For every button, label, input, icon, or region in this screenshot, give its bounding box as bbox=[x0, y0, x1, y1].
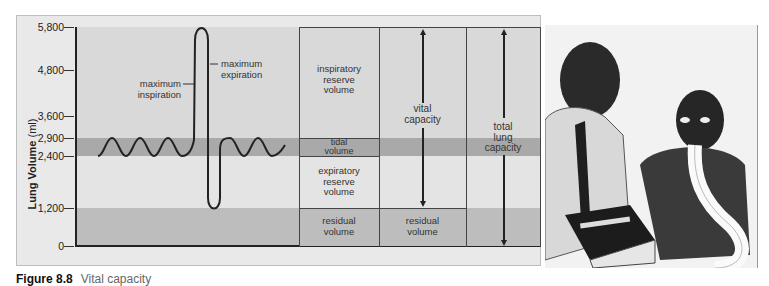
arrow-up-icon bbox=[420, 29, 426, 35]
residual-volume-label: residualvolume bbox=[299, 216, 379, 237]
max-inspiration-label: maximum inspiration bbox=[131, 79, 181, 100]
column-divider bbox=[540, 27, 541, 247]
arrow-down-icon bbox=[420, 201, 426, 207]
arrow-down-icon bbox=[501, 240, 507, 246]
irv-label: inspiratoryreservevolume bbox=[299, 64, 379, 96]
column-divider bbox=[299, 27, 300, 247]
total-lung-capacity-label: totallungcapacity bbox=[466, 122, 540, 154]
spirometer-photo bbox=[545, 25, 758, 268]
erv-label: expiratoryreservevolume bbox=[299, 166, 379, 198]
arrow-up-icon bbox=[501, 29, 507, 35]
doctor-head bbox=[560, 42, 620, 118]
cell-divider bbox=[299, 208, 466, 209]
vital-capacity-arrow-down bbox=[422, 128, 424, 204]
tidal-volume-label: tidalvolume bbox=[299, 138, 379, 156]
vital-capacity-arrow-up bbox=[422, 33, 424, 103]
tlc-arrow-up bbox=[503, 33, 505, 118]
tlc-arrow-down bbox=[503, 155, 505, 242]
max-expiration-label: maximum expiration bbox=[221, 59, 281, 80]
cell-divider bbox=[299, 156, 379, 157]
vital-residual-volume-label: residualvolume bbox=[379, 216, 466, 237]
figure-caption: Figure 8.8Vital capacity bbox=[16, 272, 151, 286]
vital-capacity-label: vitalcapacity bbox=[379, 104, 466, 125]
column-divider bbox=[379, 27, 380, 247]
